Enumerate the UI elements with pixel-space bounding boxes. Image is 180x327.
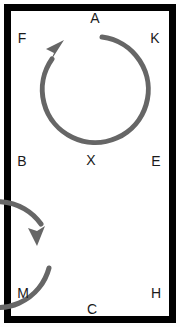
diagram-stage: A F K B X E M H C: [0, 0, 180, 327]
top-circle-arc: [42, 37, 148, 143]
top-circle-arrowhead: [46, 40, 64, 62]
label-f: F: [18, 31, 27, 45]
label-b: B: [17, 154, 26, 168]
bottom-circle-arrowhead: [28, 226, 45, 246]
label-c: C: [87, 302, 97, 316]
label-a: A: [90, 11, 99, 25]
label-e: E: [151, 154, 160, 168]
label-h: H: [151, 286, 161, 300]
label-x: X: [86, 153, 95, 167]
label-k: K: [150, 31, 159, 45]
top-circle-arrow: [42, 37, 148, 143]
label-m: M: [17, 286, 29, 300]
